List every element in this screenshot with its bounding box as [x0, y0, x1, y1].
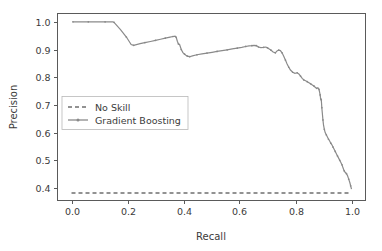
series-marker — [164, 37, 166, 39]
series-marker — [172, 36, 174, 38]
y-tick-labels: 0.40.50.60.70.80.91.0 — [35, 17, 50, 194]
y-tick-label: 0.4 — [35, 183, 50, 194]
series-marker — [278, 49, 280, 51]
series-marker — [285, 59, 287, 61]
y-tick-label: 0.9 — [35, 45, 50, 56]
series-marker — [322, 119, 324, 121]
x-tick-label: 0.2 — [121, 206, 136, 217]
series-marker — [341, 164, 343, 166]
series-marker — [245, 46, 247, 48]
x-tick-label: 0.0 — [65, 206, 80, 217]
series-marker — [226, 49, 228, 51]
x-tick-label: 0.4 — [177, 206, 192, 217]
series-marker — [316, 87, 318, 89]
series-marker — [318, 89, 320, 91]
series-marker — [320, 99, 322, 101]
legend-label-gradient-boosting: Gradient Boosting — [95, 115, 181, 126]
series-marker — [267, 47, 269, 49]
series-marker — [292, 71, 294, 73]
legend-marker-gradient-boosting — [77, 119, 80, 122]
series-marker — [348, 178, 350, 180]
series-marker — [321, 107, 323, 109]
series-marker — [255, 45, 257, 47]
x-tick-marks — [73, 201, 353, 205]
series-marker — [187, 55, 189, 57]
precision-recall-figure: 0.00.20.40.60.81.0 0.40.50.60.70.80.91.0… — [0, 0, 382, 251]
series-marker — [72, 21, 74, 23]
series-marker — [180, 49, 182, 51]
series-marker — [178, 43, 180, 45]
series-marker — [251, 45, 253, 47]
series-marker — [328, 138, 330, 140]
chart-legend: No Skill Gradient Boosting — [62, 97, 188, 130]
x-tick-label: 0.8 — [289, 206, 304, 217]
y-tick-label: 0.6 — [35, 128, 50, 139]
series-marker — [133, 45, 135, 47]
y-axis-title: Precision — [8, 85, 19, 130]
series-marker — [288, 66, 290, 68]
series-marker — [113, 22, 115, 24]
y-tick-label: 0.7 — [35, 100, 50, 111]
y-tick-marks — [54, 23, 58, 189]
series-marker — [258, 46, 260, 48]
series-marker — [343, 170, 345, 172]
chart-canvas: 0.00.20.40.60.81.0 0.40.50.60.70.80.91.0… — [0, 0, 382, 251]
series-marker — [175, 36, 177, 38]
series-marker — [330, 142, 332, 144]
series-marker — [144, 42, 146, 44]
series-marker — [104, 21, 106, 23]
y-tick-label: 0.5 — [35, 155, 50, 166]
series-marker — [334, 151, 336, 153]
series-marker — [87, 21, 89, 23]
series-marker — [339, 159, 341, 161]
series-marker — [216, 51, 218, 53]
series-marker — [310, 83, 312, 85]
series-marker — [189, 56, 191, 58]
series-marker — [296, 72, 298, 74]
series-marker — [325, 134, 327, 136]
y-tick-label: 1.0 — [35, 17, 50, 28]
series-marker — [300, 75, 302, 77]
series-marker — [206, 52, 208, 54]
series-marker — [332, 146, 334, 148]
series-marker — [313, 85, 315, 87]
series-marker — [281, 52, 283, 54]
x-tick-label: 0.6 — [232, 206, 247, 217]
series-marker — [263, 46, 265, 48]
series-marker — [319, 94, 321, 96]
series-marker — [196, 54, 198, 56]
series-marker — [274, 52, 276, 54]
x-tick-label: 1.0 — [345, 206, 360, 217]
series-marker — [155, 40, 157, 42]
series-marker — [350, 185, 352, 187]
x-axis-title: Recall — [196, 231, 226, 242]
series-marker — [346, 173, 348, 175]
series-marker — [303, 79, 305, 81]
legend-label-no-skill: No Skill — [95, 102, 130, 113]
series-marker — [184, 53, 186, 55]
y-tick-label: 0.8 — [35, 72, 50, 83]
series-marker — [337, 155, 339, 157]
x-tick-labels: 0.00.20.40.60.81.0 — [65, 206, 360, 217]
series-marker — [236, 47, 238, 49]
series-marker — [323, 128, 325, 130]
series-marker — [126, 36, 128, 38]
series-marker — [270, 49, 272, 51]
series-marker — [306, 81, 308, 83]
